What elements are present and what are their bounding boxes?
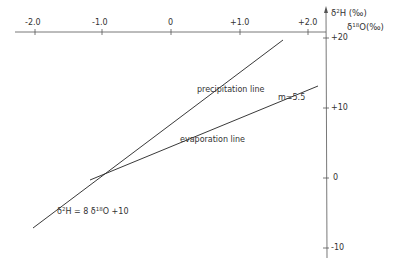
- evaporation-line-label: evaporation line: [180, 136, 245, 144]
- x-tick-label: 0: [168, 19, 173, 27]
- x-tick-label: +2.0: [298, 19, 317, 27]
- precipitation-line-label: precipitation line: [197, 86, 264, 94]
- x-tick-label: -2.0: [25, 19, 41, 27]
- y-axis-line: [326, 10, 327, 258]
- isotope-chart: -2.0 -1.0 0 +1.0 +2.0 +20 +10 0 -10 δ2H …: [0, 0, 397, 270]
- y-tick-label: 0: [333, 174, 338, 182]
- y-tick-label: +10: [331, 104, 348, 112]
- y-axis-title: δ2H (‰): [331, 9, 367, 18]
- y-tick-label: -10: [331, 244, 344, 252]
- slope-label: m=5.5: [278, 94, 305, 102]
- meteoric-equation-label: δ2H = 8 δ18O +10: [57, 207, 128, 216]
- x-tick-label: +1.0: [230, 19, 249, 27]
- x-tick-label: -1.0: [92, 19, 108, 27]
- y-axis-arrow-icon: [324, 6, 328, 13]
- y-tick-label: +20: [331, 34, 348, 42]
- x-axis-title: δ18O(‰): [347, 23, 384, 32]
- precipitation-line: [33, 40, 283, 228]
